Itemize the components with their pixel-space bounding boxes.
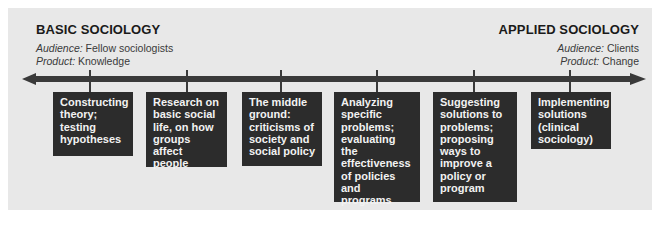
tick-mark: [280, 70, 282, 92]
box-suggesting-solutions: Suggesting solutions to problems; propos…: [433, 92, 517, 202]
box-analyzing-problems: Analyzing specific problems; evaluating …: [334, 92, 420, 202]
basic-product: Product: Knowledge: [36, 55, 173, 68]
tick-mark: [569, 70, 571, 92]
continuum-axis: [30, 76, 632, 82]
basic-sociology-header: BASIC SOCIOLOGY Audience: Fellow sociolo…: [36, 22, 173, 68]
box-middle-ground: The middle ground: criticisms of society…: [242, 92, 322, 166]
applied-audience: Audience: Clients: [499, 42, 639, 55]
applied-sociology-title: APPLIED SOCIOLOGY: [499, 22, 639, 37]
tick-mark: [186, 70, 188, 92]
applied-product: Product: Change: [499, 55, 639, 68]
box-basic-research: Research on basic social life, on how gr…: [146, 92, 227, 167]
tick-mark: [89, 70, 91, 92]
box-implementing-solutions: Implementing solutions (clinical sociolo…: [531, 92, 611, 149]
right-arrowhead-icon: [630, 73, 646, 85]
tick-mark: [473, 70, 475, 92]
box-constructing-theory: Constructing theory; testing hypotheses: [53, 92, 133, 156]
basic-sociology-title: BASIC SOCIOLOGY: [36, 22, 173, 37]
basic-audience: Audience: Fellow sociologists: [36, 42, 173, 55]
tick-mark: [376, 70, 378, 92]
applied-sociology-header: APPLIED SOCIOLOGY Audience: Clients Prod…: [499, 22, 639, 68]
